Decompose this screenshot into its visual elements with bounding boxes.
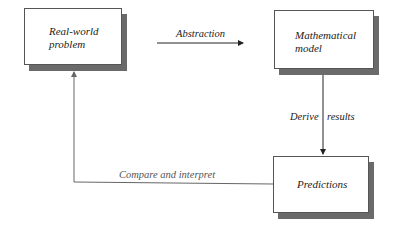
compare-arrow [74, 72, 273, 184]
mathematical-model-box: Mathematical model [274, 10, 374, 69]
label-line1: Mathematical [295, 29, 356, 41]
predictions-label: Predictions [297, 178, 347, 191]
label-line2: problem [49, 38, 85, 50]
abstraction-label: Abstraction [176, 28, 225, 39]
compare-label: Compare and interpret [119, 169, 215, 180]
real-world-problem-label: Real-world problem [49, 25, 99, 51]
results-label: results [327, 111, 355, 122]
mathematical-model-label: Mathematical model [295, 29, 356, 55]
predictions-box: Predictions [273, 156, 369, 213]
label-line1: Real-world [49, 25, 99, 37]
label-line2: model [295, 42, 322, 54]
real-world-problem-box: Real-world problem [24, 8, 122, 65]
derive-label: Derive [290, 111, 319, 122]
